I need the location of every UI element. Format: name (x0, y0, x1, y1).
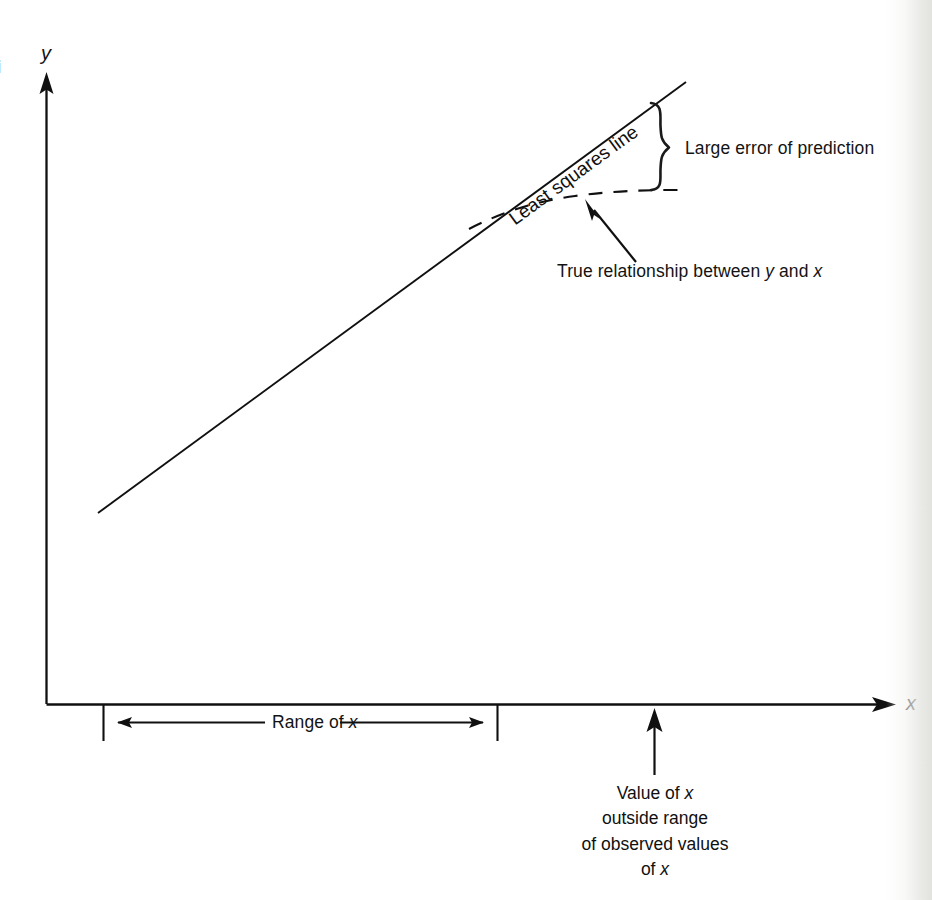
figure-page: i (0, 0, 932, 900)
true-relationship-label-prefix: True relationship between (557, 261, 765, 281)
true-relationship-curve-group (469, 190, 684, 229)
value-outside-range-caption-line-3: of observed values (534, 832, 776, 857)
value-outside-range-pointer (647, 708, 663, 775)
value-caption-l4-prefix: of (641, 859, 660, 879)
range-of-x-label: Range of x (272, 712, 358, 733)
axes-group (40, 72, 897, 712)
value-caption-l1-prefix: Value of (617, 783, 685, 803)
range-of-x-label-var: x (349, 712, 358, 732)
value-outside-range-caption: Value of x outside range of observed val… (534, 781, 776, 883)
value-outside-range-caption-line-4: of x (534, 857, 776, 882)
diagram-canvas (0, 0, 932, 900)
true-relationship-label-mid: and (774, 261, 813, 281)
large-error-brace (651, 103, 669, 190)
brace-path (651, 103, 669, 190)
true-relationship-label-x: x (813, 261, 822, 281)
true-relationship-label: True relationship between y and x (557, 261, 822, 282)
value-caption-l4-var: x (660, 859, 669, 879)
range-of-x-label-prefix: Range of (272, 712, 349, 732)
x-axis-label: x (906, 692, 916, 716)
value-outside-range-caption-line-2: outside range (534, 806, 776, 831)
true-relationship-curve (469, 190, 684, 229)
large-error-label: Large error of prediction (685, 138, 874, 159)
value-caption-l1-var: x (685, 783, 694, 803)
true-relationship-pointer (585, 199, 636, 262)
true-relationship-pointer-arrowhead (585, 199, 600, 221)
y-axis-label: y (41, 42, 51, 66)
value-outside-range-caption-line-1: Value of x (534, 781, 776, 806)
true-relationship-pointer-line (594, 210, 636, 262)
true-relationship-label-y: y (765, 261, 774, 281)
